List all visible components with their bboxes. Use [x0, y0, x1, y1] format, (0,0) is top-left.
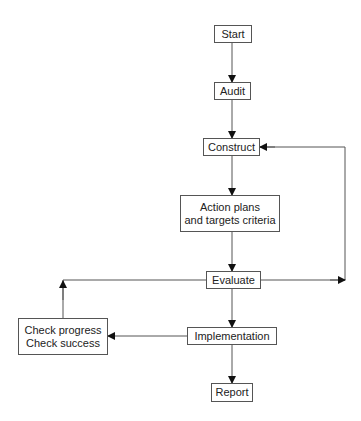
node-evaluate-label: Evaluate: [212, 274, 255, 287]
node-start: Start: [214, 25, 252, 43]
node-check-line2: Check success: [26, 337, 100, 350]
node-evaluate: Evaluate: [206, 271, 261, 289]
edge-check-evaluate-loop: [63, 280, 206, 318]
node-action-line2: and targets criteria: [184, 214, 275, 227]
node-implementation: Implementation: [187, 327, 277, 345]
node-report: Report: [211, 383, 253, 402]
node-construct: Construct: [203, 138, 260, 156]
node-check: Check progress Check success: [18, 318, 108, 355]
node-check-line1: Check progress: [24, 324, 101, 337]
node-action-plans: Action plans and targets criteria: [180, 195, 280, 232]
node-audit: Audit: [214, 82, 251, 100]
node-report-label: Report: [215, 386, 248, 399]
node-audit-label: Audit: [220, 85, 245, 98]
node-action-line1: Action plans: [200, 201, 260, 214]
node-implementation-label: Implementation: [194, 330, 269, 343]
node-construct-label: Construct: [208, 141, 255, 154]
node-start-label: Start: [221, 28, 244, 41]
